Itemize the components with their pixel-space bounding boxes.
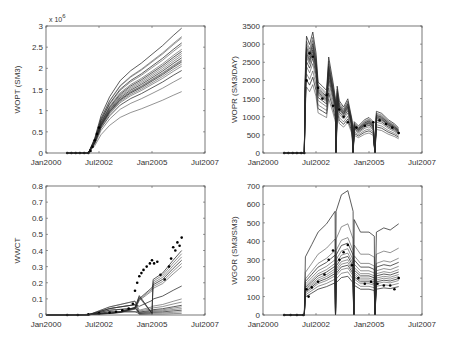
observed-point bbox=[364, 125, 367, 128]
observed-point bbox=[174, 249, 177, 252]
observed-point bbox=[108, 311, 111, 314]
observed-points bbox=[66, 126, 100, 154]
ensemble-lines bbox=[284, 191, 399, 315]
observed-point bbox=[312, 56, 315, 59]
y-tick-label: 0.3 bbox=[32, 263, 44, 272]
observed-point bbox=[163, 278, 166, 281]
panel-wopr: Jan2000Jul2002Jan2005Jul2007050010001500… bbox=[230, 22, 437, 167]
observed-point bbox=[151, 259, 154, 262]
ensemble-line bbox=[67, 43, 182, 153]
ensemble-line bbox=[284, 46, 399, 153]
observed-point bbox=[370, 281, 373, 284]
observed-point bbox=[376, 282, 379, 285]
observed-point bbox=[364, 282, 367, 285]
y-tick-label: 2.5 bbox=[32, 43, 44, 52]
y-tick-label: 3500 bbox=[242, 22, 260, 31]
ensemble-line bbox=[46, 263, 182, 315]
y-tick-label: 400 bbox=[247, 237, 261, 246]
y-tick-label: 300 bbox=[247, 256, 261, 265]
observed-point bbox=[176, 241, 179, 244]
ensemble-line bbox=[284, 268, 399, 315]
observed-point bbox=[308, 52, 311, 55]
observed-point bbox=[327, 258, 330, 261]
y-tick-label: 0 bbox=[256, 311, 261, 320]
y-tick-label: 3000 bbox=[242, 40, 260, 49]
y-tick-label: 1.5 bbox=[32, 86, 44, 95]
observed-point bbox=[132, 302, 135, 305]
y-tick-label: 2500 bbox=[242, 58, 260, 67]
observed-point bbox=[372, 121, 375, 124]
ensemble-line bbox=[284, 37, 399, 153]
x-tick-label: Jul2002 bbox=[85, 158, 114, 167]
x-tick-label: Jul2002 bbox=[85, 320, 114, 329]
observed-point bbox=[121, 309, 124, 312]
observed-point bbox=[138, 275, 141, 278]
y-tick-label: 600 bbox=[247, 200, 261, 209]
observed-point bbox=[311, 286, 314, 289]
y-tick-label: 2 bbox=[39, 64, 44, 73]
ensemble-line bbox=[67, 62, 182, 153]
y-tick-label: 0 bbox=[39, 311, 44, 320]
observed-point bbox=[307, 295, 310, 298]
observed-point bbox=[98, 126, 101, 129]
observed-point bbox=[338, 258, 341, 261]
observed-point bbox=[332, 249, 335, 252]
panel-wwct: Jan2000Jul2002Jan2005Jul200700.10.20.30.… bbox=[13, 182, 220, 329]
observed-point bbox=[317, 86, 320, 89]
axes-frame: Jan2000Jul2002Jan2005Jul2007050010001500… bbox=[242, 22, 436, 167]
x-tick-label: Jul2002 bbox=[302, 158, 331, 167]
y-tick-label: 0.5 bbox=[32, 230, 44, 239]
ensemble-line bbox=[284, 191, 399, 315]
observed-point bbox=[351, 264, 354, 267]
axes-frame: Jan2000Jul2002Jan2005Jul2007010020030040… bbox=[247, 182, 437, 329]
ensemble-line bbox=[284, 50, 399, 153]
observed-point bbox=[342, 115, 345, 118]
observed-point bbox=[168, 265, 171, 268]
observed-point bbox=[94, 139, 97, 142]
y-tick-label: 100 bbox=[247, 293, 261, 302]
observed-point bbox=[140, 272, 143, 275]
ensemble-line bbox=[67, 38, 182, 153]
observed-point bbox=[115, 311, 118, 314]
x-tick-label: Jul2007 bbox=[191, 320, 220, 329]
observed-point bbox=[393, 288, 396, 291]
observed-point bbox=[383, 284, 386, 287]
ensemble-line bbox=[284, 48, 399, 153]
x-tick-label: Jan2000 bbox=[31, 320, 62, 329]
ensemble-line bbox=[284, 260, 399, 315]
panel-wgor: Jan2000Jul2002Jan2005Jul2007010020030040… bbox=[230, 182, 437, 329]
y-tick-label: 0 bbox=[256, 149, 261, 158]
observed-point bbox=[389, 284, 392, 287]
x-tick-label: Jan2005 bbox=[354, 158, 385, 167]
y-tick-label: 0.7 bbox=[32, 198, 44, 207]
ensemble-line bbox=[284, 276, 399, 315]
observed-point bbox=[338, 108, 341, 111]
ensemble-line bbox=[284, 265, 399, 315]
y-multiplier-label: x 106 bbox=[49, 13, 66, 23]
figure: Jan2000Jul2002Jan2005Jul200700.511.522.5… bbox=[0, 0, 449, 343]
y-axis-label: WWCT bbox=[13, 238, 22, 264]
observed-point bbox=[134, 290, 137, 293]
observed-point bbox=[317, 281, 320, 284]
y-tick-label: 200 bbox=[247, 274, 261, 283]
ensemble-line bbox=[284, 253, 399, 315]
x-tick-label: Jan2000 bbox=[248, 158, 279, 167]
y-tick-label: 0.5 bbox=[32, 128, 44, 137]
ensemble-line bbox=[284, 238, 399, 315]
ensemble-line bbox=[284, 40, 399, 153]
observed-point bbox=[357, 277, 360, 280]
ensemble-line bbox=[284, 44, 399, 153]
y-tick-label: 1 bbox=[39, 107, 44, 116]
y-axis-label: WOPR (SM3/DAY) bbox=[230, 56, 239, 123]
panel-wopt: Jan2000Jul2002Jan2005Jul200700.511.522.5… bbox=[13, 13, 220, 167]
observed-point bbox=[342, 251, 345, 254]
y-tick-label: 0.6 bbox=[32, 214, 44, 223]
x-tick-label: Jul2007 bbox=[408, 158, 437, 167]
observed-point bbox=[347, 244, 350, 247]
observed-point bbox=[385, 123, 388, 126]
y-tick-label: 2000 bbox=[242, 76, 260, 85]
observed-point bbox=[305, 288, 308, 291]
ensemble-lines bbox=[46, 251, 182, 316]
y-axis-label: WOPT (SM3) bbox=[13, 65, 22, 113]
x-tick-label: Jul2002 bbox=[302, 320, 331, 329]
